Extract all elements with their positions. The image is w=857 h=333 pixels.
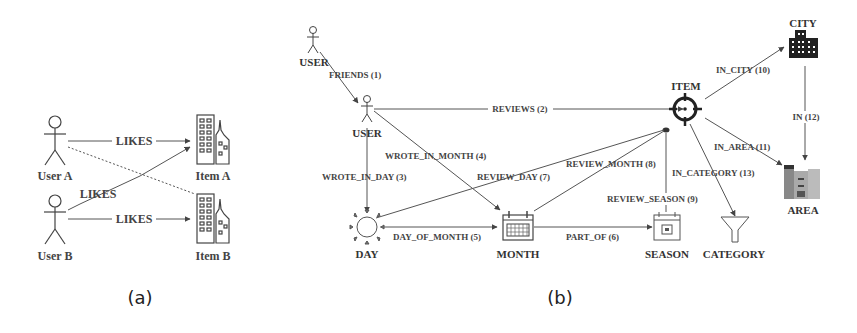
- edge-label-part-of: PART_OF (6): [566, 232, 619, 242]
- node-label-month: MONTH: [497, 248, 540, 260]
- edge-label-reviews: REVIEWS (2): [492, 104, 547, 114]
- month-calendar-icon: [503, 211, 533, 240]
- node-label-user-top: USER: [299, 56, 329, 68]
- edge-label-day-of-month: DAY_OF_MONTH (5): [393, 232, 481, 242]
- edge-label-review-month: REVIEW_MONTH (8): [566, 159, 656, 169]
- edge-label-likes: LIKES: [116, 212, 153, 226]
- edge-label-review-season: REVIEW_SEASON (9): [607, 194, 698, 204]
- city-building-icon: [789, 30, 818, 58]
- caption-a: (a): [127, 287, 152, 308]
- edge-label-review-day: REVIEW_DAY (7): [477, 172, 550, 182]
- item-a-building-icon: [197, 115, 229, 164]
- edge-label-in-category: IN_CATEGORY (13): [672, 168, 754, 178]
- category-funnel-icon: [721, 217, 749, 242]
- item-crosshair-icon: [669, 93, 702, 126]
- panel-a: LIKES LIKES LIKES User A User B: [38, 115, 231, 308]
- node-label-item: ITEM: [671, 80, 701, 92]
- user-person-icon: [361, 96, 373, 123]
- node-label-season: SEASON: [645, 248, 689, 260]
- user-b-person-icon: [44, 195, 66, 244]
- diagram-canvas: LIKES LIKES LIKES User A User B: [0, 0, 857, 333]
- season-calendar-icon: [654, 212, 680, 240]
- edge-label-wrote-in-day: WROTE_IN_DAY (3): [322, 172, 407, 182]
- node-label-user: USER: [352, 127, 382, 139]
- edge-label-in-city: IN_CITY (10): [716, 65, 770, 75]
- node-label-item-b: Item B: [196, 249, 231, 263]
- edge-label-likes: LIKES: [80, 187, 117, 201]
- area-buildings-icon: [784, 165, 820, 199]
- edge-label-friends: FRIENDS (1): [329, 70, 381, 80]
- edge-label-in: IN (12): [792, 112, 819, 122]
- user-top-person-icon: [307, 27, 319, 54]
- node-label-day: DAY: [356, 248, 379, 260]
- day-sun-icon: [350, 210, 384, 244]
- node-label-item-a: Item A: [196, 169, 231, 183]
- node-label-user-a: User A: [38, 169, 73, 183]
- edge-label-in-area: IN_AREA (11): [714, 142, 770, 152]
- caption-b: (b): [547, 287, 572, 308]
- node-label-user-b: User B: [38, 249, 73, 263]
- edge-label-likes: LIKES: [116, 134, 153, 148]
- node-label-city: CITY: [789, 17, 817, 29]
- item-b-building-icon: [197, 194, 229, 243]
- node-label-area: AREA: [787, 204, 818, 216]
- user-a-person-icon: [44, 116, 66, 165]
- node-label-category: CATEGORY: [703, 248, 765, 260]
- edge-label-wrote-in-month: WROTE_IN_MONTH (4): [385, 151, 486, 161]
- panel-b: FRIENDS (1) REVIEWS (2) WROTE_IN_DAY (3)…: [299, 17, 824, 308]
